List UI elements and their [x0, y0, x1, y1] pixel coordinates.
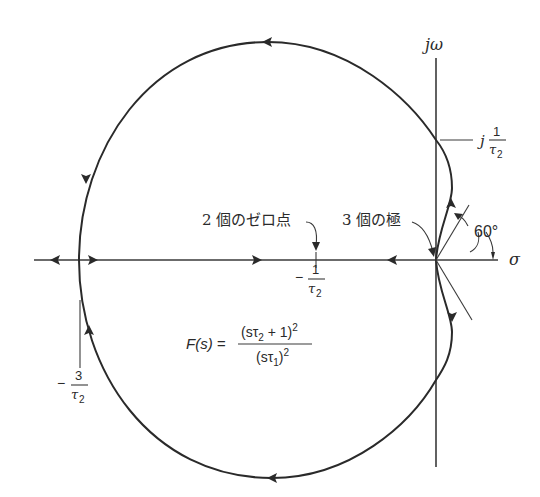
tf-den-open: (sτ — [256, 349, 274, 365]
tf-denominator: (sτ1)2 — [256, 347, 289, 368]
zero-den-sub: 2 — [316, 288, 322, 299]
tf-num-open: (sτ — [241, 324, 259, 340]
real-axis-label: σ — [509, 250, 521, 269]
zeros-annotation-arrowhead — [312, 242, 320, 251]
tf-numerator: (sτ2 + 1)2 — [241, 322, 298, 343]
breakaway-num: 3 — [75, 368, 82, 383]
poles-annotation: 3 個の極 — [342, 211, 401, 229]
angle-label: 60° — [474, 223, 498, 240]
imag-crossing-num: 1 — [493, 124, 500, 139]
imag-axis-label: jω — [422, 35, 443, 54]
poles-annotation-arrowhead — [428, 247, 436, 257]
breakaway-den: τ — [71, 387, 79, 402]
locus-lower-branch — [79, 260, 452, 478]
poles-annotation-arrow — [412, 222, 433, 252]
imag-crossing-j: j — [477, 132, 485, 150]
angle-arrowhead-bottom — [491, 252, 495, 260]
breakaway-sign: − — [57, 375, 65, 391]
root-locus-diagram: jω σ 60° j 1 τ 2 − 1 τ 2 − 3 τ 2 2 個のゼロ点… — [0, 0, 540, 497]
tf-den-exp: 2 — [283, 347, 289, 358]
zero-sign: − — [295, 269, 303, 285]
locus-arrow-upper-left — [81, 174, 91, 184]
imag-crossing-den: τ — [489, 142, 497, 157]
imag-crossing-den-sub: 2 — [497, 149, 503, 160]
tf-num-close: + 1) — [264, 324, 292, 340]
zero-num: 1 — [312, 262, 319, 277]
zeros-annotation: 2 個のゼロ点 — [202, 211, 291, 229]
locus-arrow-right-upper — [446, 198, 456, 208]
tf-num-exp: 2 — [292, 322, 298, 333]
zero-den: τ — [308, 281, 316, 296]
breakaway-den-sub: 2 — [79, 394, 85, 405]
tf-lhs: F(s) = — [186, 335, 226, 352]
